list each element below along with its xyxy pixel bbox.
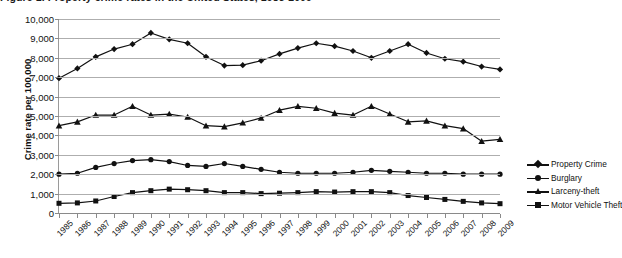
data-point-marker [167,187,172,192]
data-point-marker [130,158,135,163]
gridline [59,58,500,59]
gridline [59,194,500,195]
data-point-marker [332,43,338,49]
y-tick-mark [55,38,59,39]
data-point-marker [313,40,319,46]
data-point-marker [276,51,282,57]
data-point-marker [479,200,484,205]
y-tick-label: 8,000 [14,52,54,63]
data-point-marker [423,50,429,56]
data-point-marker [148,30,154,36]
data-point-marker [498,201,503,206]
y-tick-mark [55,19,59,20]
data-point-marker [93,198,98,203]
data-point-marker [185,163,190,168]
chart-legend: Property CrimeBurglaryLarceny-theftMotor… [527,158,622,212]
data-point-marker [387,169,392,174]
data-point-marker [129,41,135,47]
gridline [59,155,500,156]
y-tick-label: 9,000 [14,33,54,44]
data-point-marker [75,200,80,205]
data-point-marker [387,48,393,54]
data-point-marker [442,197,447,202]
data-point-marker [148,157,153,162]
y-tick-label: 1,000 [14,188,54,199]
gridline [59,77,500,78]
y-tick-label: 0 [14,208,54,219]
gridline [59,19,500,20]
diamond-marker-icon [527,159,549,170]
y-tick-label: 10,000 [14,14,54,25]
data-point-marker [240,164,245,169]
data-point-marker [221,62,227,68]
legend-label: Property Crime [551,159,607,170]
gridline [59,116,500,117]
legend-label: Larceny-theft [551,186,599,197]
data-point-marker [111,46,117,52]
data-point-marker [240,62,246,68]
data-point-marker [74,65,80,71]
series-motor-vehicle-theft [57,187,503,207]
y-tick-mark [55,97,59,98]
data-point-marker [57,201,62,206]
y-tick-label: 7,000 [14,72,54,83]
legend-item-property-crime[interactable]: Property Crime [527,158,622,172]
data-point-marker [295,45,301,51]
legend-label: Burglary [551,173,582,184]
y-tick-label: 4,000 [14,130,54,141]
data-point-marker [129,103,136,109]
data-point-marker [222,161,227,166]
gridline [59,174,500,175]
data-point-marker [185,187,190,192]
legend-marker [535,175,541,181]
data-point-marker [497,66,503,72]
data-point-marker [204,188,209,193]
legend-marker [535,188,541,194]
legend-item-larceny-theft[interactable]: Larceny-theft [527,185,622,199]
data-point-marker [369,168,374,173]
y-tick-mark [55,174,59,175]
y-tick-label: 5,000 [14,111,54,122]
y-tick-label: 6,000 [14,91,54,102]
legend-item-motor-vehicle-theft[interactable]: Motor Vehicle Theft [527,199,622,213]
data-point-marker [112,161,117,166]
data-point-marker [259,167,264,172]
data-point-marker [148,188,153,193]
chart-title: Figure 1. Property crime rates in the Un… [0,0,614,5]
data-point-marker [93,165,98,170]
data-point-marker [405,41,411,47]
data-point-marker [203,164,208,169]
y-tick-mark [55,58,59,59]
y-tick-label: 2,000 [14,169,54,180]
y-tick-label: 3,000 [14,149,54,160]
legend-item-burglary[interactable]: Burglary [527,172,622,186]
circle-marker-icon [527,173,549,184]
series-larceny-theft [56,103,504,144]
gridline [59,38,500,39]
triangle-marker-icon [527,186,549,197]
x-axis-tick-labels: 1985198619871988198919901991199219931994… [59,218,500,258]
y-axis-tick-labels: 10,0009,0008,0007,0006,0005,0004,0003,00… [11,0,54,258]
data-point-marker [460,59,466,65]
x-tick-mark [500,214,501,218]
legend-marker [535,202,541,208]
gridline [59,97,500,98]
plot-area [59,19,500,213]
y-tick-mark [55,116,59,117]
data-point-marker [112,194,117,199]
y-tick-mark [55,77,59,78]
y-tick-mark [55,194,59,195]
square-marker-icon [527,200,549,211]
data-point-marker [424,195,429,200]
legend-label: Motor Vehicle Theft [551,200,622,211]
legend-marker [534,160,542,168]
data-point-marker [167,159,172,164]
data-point-marker [350,48,356,54]
gridline [59,135,500,136]
data-point-marker [368,103,375,109]
data-point-marker [461,199,466,204]
y-tick-mark [55,155,59,156]
y-tick-mark [55,135,59,136]
data-point-marker [479,63,485,69]
